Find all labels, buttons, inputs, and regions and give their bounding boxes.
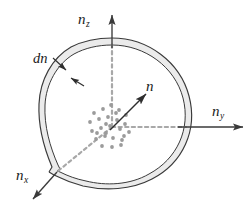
state-dot: [104, 122, 108, 126]
state-dot: [92, 111, 96, 115]
state-dot: [114, 111, 118, 115]
axis-label-nz-base: n: [78, 11, 86, 27]
state-dot: [122, 134, 126, 138]
dn-leader-arrow-lower: [71, 78, 84, 86]
dn-leader-arrows: [53, 58, 84, 86]
state-dot: [118, 127, 122, 131]
state-dot: [88, 120, 92, 124]
state-dot: [127, 130, 131, 134]
nx-dashed-interior: [58, 127, 112, 171]
state-dot: [119, 143, 123, 147]
axis-label-nz-sub: z: [86, 19, 90, 29]
state-dot: [117, 108, 121, 112]
state-dot: [123, 122, 127, 126]
state-dot: [94, 137, 98, 141]
state-dot: [99, 126, 103, 130]
axis-label-nx: nx: [16, 168, 28, 183]
state-dot: [108, 124, 112, 128]
state-dot: [100, 144, 104, 148]
axis-label-nx-base: n: [16, 167, 24, 183]
state-dot: [120, 138, 124, 142]
state-dot: [95, 131, 99, 135]
diagram-canvas: nz ny nx n dn: [0, 0, 252, 211]
state-dot: [104, 131, 108, 135]
axis-label-ny: ny: [212, 104, 224, 119]
state-dot: [111, 136, 115, 140]
annotation-label-dn: dn: [33, 51, 48, 66]
axis-label-nz: nz: [78, 12, 89, 27]
axis-label-ny-sub: y: [220, 111, 224, 121]
state-dot: [97, 117, 101, 121]
state-dot: [106, 115, 110, 119]
nx-axis: [33, 172, 57, 199]
axis-label-nx-sub: x: [24, 175, 28, 185]
state-dot: [109, 103, 113, 107]
state-dot: [90, 129, 94, 133]
state-dot: [110, 145, 114, 149]
shell-outer-contour: [49, 38, 192, 189]
state-dot: [101, 107, 105, 111]
vector-label-n: n: [146, 79, 154, 94]
axis-label-ny-base: n: [212, 103, 220, 119]
